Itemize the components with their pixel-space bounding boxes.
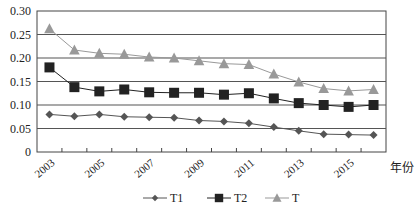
legend: T1T2T [143, 191, 300, 205]
square-marker-icon [219, 90, 229, 100]
legend-item-t: T [265, 191, 300, 205]
x-tick-label: 2015 [331, 156, 356, 180]
square-marker-icon [144, 87, 154, 97]
triangle-marker-icon [44, 23, 55, 33]
square-marker-icon [344, 102, 354, 112]
x-axis-label: 年份 [390, 161, 414, 175]
legend-item-t1: T1 [143, 191, 183, 205]
square-marker-icon [194, 88, 204, 98]
diamond-marker-icon [270, 123, 278, 131]
triangle-marker-icon [69, 45, 80, 55]
square-marker-icon [269, 93, 279, 103]
gridlines [37, 11, 386, 152]
diamond-marker-icon [120, 113, 128, 121]
diamond-marker-icon [45, 110, 53, 118]
diamond-marker-icon [370, 131, 378, 139]
square-marker-icon [319, 100, 329, 110]
diamond-marker-icon [170, 114, 178, 122]
y-tick-label: 0.20 [10, 51, 31, 65]
y-tick-label: 0.15 [10, 75, 31, 89]
legend-label: T1 [170, 191, 183, 205]
diamond-marker-icon [345, 131, 353, 139]
x-tick-label: 2009 [182, 156, 207, 180]
diamond-marker-icon [320, 130, 328, 138]
x-tick-label: 2007 [132, 156, 157, 180]
line-chart: 00.050.100.150.200.250.30 20032005200720… [0, 0, 416, 211]
x-tick-label: 2013 [281, 156, 306, 180]
diamond-marker-icon [195, 117, 203, 125]
triangle-marker-icon [269, 68, 280, 78]
square-marker-icon [44, 62, 54, 72]
y-tick-label: 0.30 [10, 4, 31, 18]
diamond-marker-icon [152, 195, 158, 201]
y-tick-label: 0.10 [10, 98, 31, 112]
y-tick-label: 0.05 [10, 122, 31, 136]
diamond-marker-icon [220, 117, 228, 125]
square-marker-icon [94, 86, 104, 96]
triangle-marker-icon [368, 84, 379, 94]
square-marker-icon [244, 88, 254, 98]
square-marker-icon [69, 82, 79, 92]
square-marker-icon [369, 100, 379, 110]
square-marker-icon [294, 98, 304, 108]
y-tick-label: 0 [25, 145, 31, 159]
square-marker-icon [119, 84, 129, 94]
square-marker-icon [169, 88, 179, 98]
diamond-marker-icon [95, 110, 103, 118]
legend-item-t2: T2 [207, 191, 247, 205]
legend-label: T [292, 191, 300, 205]
y-axis: 00.050.100.150.200.250.30 [10, 4, 31, 159]
diamond-marker-icon [70, 112, 78, 120]
series-t1 [45, 110, 377, 139]
diamond-marker-icon [245, 119, 253, 127]
y-tick-label: 0.25 [10, 28, 31, 42]
x-tick-label: 2011 [232, 156, 256, 179]
legend-label: T2 [234, 191, 247, 205]
x-tick-label: 2003 [32, 156, 57, 180]
square-marker-icon [215, 194, 223, 202]
diamond-marker-icon [145, 113, 153, 121]
x-tick-label: 2005 [82, 156, 107, 180]
x-axis: 2003200520072009201120132015 [32, 148, 361, 180]
